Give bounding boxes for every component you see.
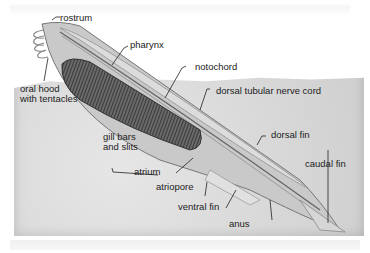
label-atriopore: atriopore — [156, 182, 194, 192]
label-ventral-fin: ventral fin — [178, 202, 219, 212]
label-caudal-fin: caudal fin — [305, 159, 346, 169]
label-atrium: atrium — [134, 167, 160, 177]
label-oral-hood-line2: with tentacles — [20, 94, 78, 104]
lancelet-illustration — [0, 0, 370, 253]
label-dorsal-fin: dorsal fin — [271, 130, 310, 140]
label-anus: anus — [229, 219, 250, 229]
label-gill-line2: and slits — [103, 142, 138, 152]
label-notochord: notochord — [195, 62, 237, 72]
diagram-frame: rostrum pharynx notochord oral hood with… — [0, 0, 370, 253]
label-dorsal-nerve-cord: dorsal tubular nerve cord — [216, 86, 321, 96]
label-pharynx: pharynx — [130, 40, 164, 50]
label-rostrum: rostrum — [60, 13, 92, 23]
